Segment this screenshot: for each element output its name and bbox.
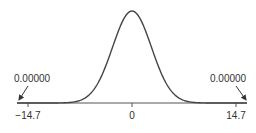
normal-distribution-chart: −14.7 0 14.7 0.00000 0.00000	[0, 0, 256, 133]
right-annotation-arrow	[236, 86, 246, 100]
right-tail-annotation: 0.00000	[210, 73, 247, 84]
left-tail-annotation: 0.00000	[14, 73, 51, 84]
density-curve	[17, 11, 247, 103]
x-tick-label-right: 14.7	[226, 110, 246, 121]
x-tick-label-center: 0	[129, 110, 135, 121]
x-tick-label-left: −14.7	[15, 110, 41, 121]
left-annotation-arrow	[19, 86, 28, 100]
